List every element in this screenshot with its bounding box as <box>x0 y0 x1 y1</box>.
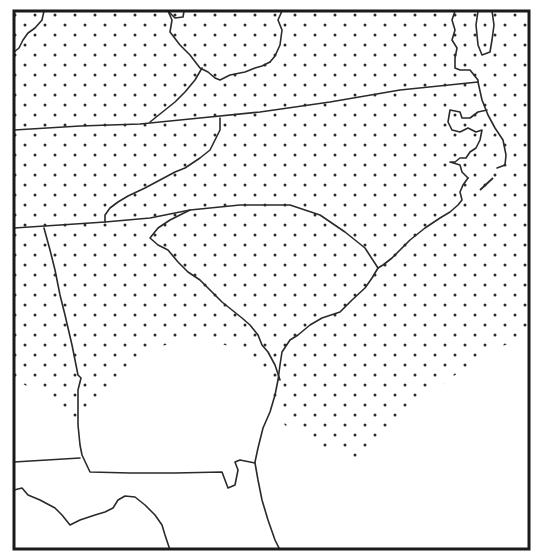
stippled-area <box>14 11 530 470</box>
map <box>0 0 540 555</box>
